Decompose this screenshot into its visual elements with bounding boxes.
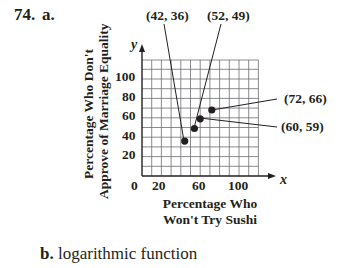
point-label: (60, 59) — [281, 119, 324, 135]
x-tick: 20 — [152, 178, 166, 194]
x-tick: 0 — [131, 178, 138, 194]
y-axis-arrow-icon — [139, 44, 145, 52]
x-tick: 100 — [228, 178, 248, 194]
y-tick: 60 — [122, 108, 136, 124]
y-tick: 40 — [122, 128, 136, 144]
y-tick: 80 — [122, 89, 136, 105]
y-tick: 20 — [122, 147, 136, 163]
data-point — [197, 115, 204, 122]
x-axis-label-line-2: Won't Try Sushi — [140, 212, 280, 228]
x-axis-label-line-1: Percentage Who — [140, 196, 280, 212]
x-tick: 60 — [192, 178, 206, 194]
data-point — [208, 106, 215, 113]
data-point — [191, 125, 198, 132]
y-tick: 100 — [115, 69, 135, 85]
data-point — [181, 138, 188, 145]
part-b-answer: logarithmic function — [58, 244, 197, 263]
part-b: b. logarithmic function — [40, 244, 197, 264]
point-label: (72, 66) — [284, 91, 327, 107]
point-label: (52, 49) — [207, 8, 250, 24]
part-b-label: b. — [40, 244, 54, 263]
point-label: (42, 36) — [146, 8, 189, 24]
x-axis-label: Percentage Who Won't Try Sushi — [140, 196, 280, 228]
x-axis-symbol: x — [280, 172, 287, 188]
y-axis-symbol: y — [131, 37, 137, 53]
x-axis-arrow-icon — [268, 173, 276, 179]
